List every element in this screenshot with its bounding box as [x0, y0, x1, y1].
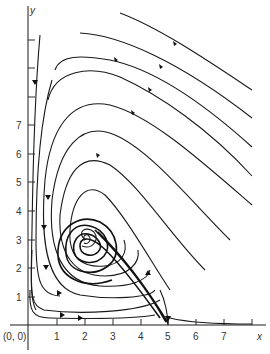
- x-tick-label: 4: [138, 331, 144, 342]
- direction-arrows: [32, 41, 177, 322]
- x-tick-label: 6: [193, 331, 199, 342]
- x-tick-label: 1: [54, 331, 60, 342]
- y-tick-label: 2: [16, 263, 22, 274]
- spiral: [58, 219, 160, 318]
- origin-label: (0, 0): [3, 331, 26, 342]
- x-tick-label: 3: [110, 331, 116, 342]
- x-axis-label: x: [256, 331, 263, 342]
- y-axis-label: y: [29, 5, 36, 16]
- x-tick-label: 7: [221, 331, 227, 342]
- x-ticks: [57, 319, 252, 325]
- y-tick-label: 3: [16, 235, 22, 246]
- y-tick-label: 4: [16, 206, 22, 217]
- x-tick-label: 2: [82, 331, 88, 342]
- y-tick-label: 6: [16, 149, 22, 160]
- trajectories: [30, 13, 252, 325]
- x-tick-label: 5: [165, 331, 171, 342]
- y-tick-label: 7: [16, 120, 22, 131]
- y-tick-label: 1: [16, 292, 22, 303]
- y-tick-label: 5: [16, 177, 22, 188]
- phase-portrait: 1 2 3 4 5 6 7 1 2 3 4 5 6 7 (0, 0) x y: [0, 0, 270, 354]
